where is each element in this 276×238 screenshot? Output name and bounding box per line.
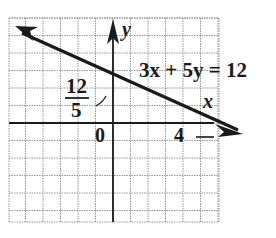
y-axis-label: y — [122, 18, 131, 41]
x-intercept-label: 4 — [174, 124, 184, 147]
equation-label: 3x + 5y = 12 — [139, 58, 247, 83]
graph-canvas — [0, 0, 276, 238]
linear-equation-graph: y x 3x + 5y = 12 0 4 12 5 — [0, 0, 276, 238]
equation-text: 3x + 5y = 12 — [139, 58, 247, 82]
y-intercept-numerator: 12 — [66, 74, 87, 99]
y-axis — [107, 19, 119, 222]
x-axis-label: x — [203, 90, 213, 113]
intercept-pointer — [96, 96, 106, 106]
origin-label: 0 — [95, 124, 105, 147]
grid-lines — [9, 18, 219, 222]
y-intercept-denominator: 5 — [71, 98, 82, 123]
